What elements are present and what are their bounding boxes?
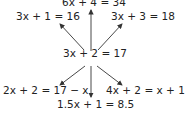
equation-top-right: 3x + 3 = 18: [111, 11, 175, 22]
equation-bottom: 1.5x + 1 = 8.5: [57, 99, 134, 110]
equation-top: 6x + 4 = 34: [62, 0, 126, 8]
equation-top-left: 3x + 1 = 16: [16, 11, 80, 22]
arrow-to-bottom-left: [60, 66, 85, 85]
arrow-to-bottom-right: [97, 66, 122, 85]
equation-center: 3x + 2 = 17: [63, 48, 127, 59]
equation-diagram: 6x + 4 = 34 3x + 1 = 16 3x + 3 = 18 3x +…: [0, 0, 185, 118]
equation-bottom-right: 4x + 2 = x + 17: [106, 85, 185, 96]
equation-bottom-left: 2x + 2 = 17 − x: [3, 85, 89, 96]
